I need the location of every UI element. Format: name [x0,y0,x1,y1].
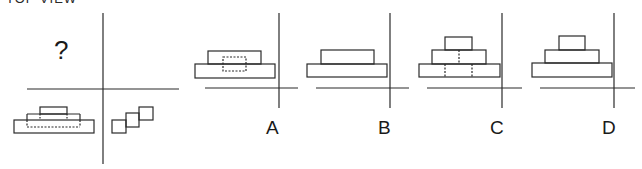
option-b-figure [307,13,409,108]
option-a-label[interactable]: A [266,117,279,139]
front-view-figure [14,107,94,133]
option-c-label[interactable]: C [490,117,504,139]
option-c-figure [419,13,522,108]
option-a-figure [195,13,298,108]
side-view-figure [112,107,153,133]
option-d-label[interactable]: D [602,117,616,139]
option-d-figure [532,13,635,108]
views-diagram [0,0,642,169]
option-b-label[interactable]: B [378,117,391,139]
